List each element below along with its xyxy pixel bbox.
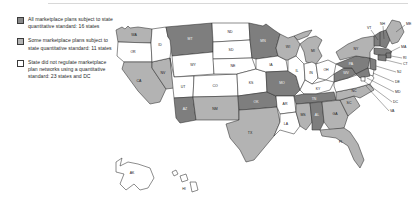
state-label-AL: AL <box>315 113 319 117</box>
state-FL <box>320 128 364 168</box>
callout-label-MD: MD <box>395 90 401 94</box>
state-label-AK: AK <box>130 171 135 175</box>
callout-label-ME: ME <box>406 22 412 26</box>
state-label-PA: PA <box>349 62 354 66</box>
state-AK <box>116 158 154 190</box>
callout-label-CT: CT <box>403 62 409 66</box>
choropleth-figure: All marketplace plans subject to state q… <box>0 0 418 221</box>
state-label-AR: AR <box>283 102 288 106</box>
state-label-MS: MS <box>300 113 306 117</box>
state-CT <box>378 55 386 61</box>
state-DC <box>361 77 365 81</box>
legend-item-none: State did not regulate marketplace plan … <box>17 59 117 81</box>
state-NJ <box>370 58 376 70</box>
state-label-SD: SD <box>229 48 234 52</box>
state-label-WA: WA <box>131 33 137 37</box>
state-label-NC: NC <box>351 89 357 93</box>
state-label-OH: OH <box>323 68 329 72</box>
callout-label-MA: MA <box>401 45 407 49</box>
top-rule <box>48 3 408 4</box>
state-label-IN: IN <box>309 71 313 75</box>
state-label-OR: OR <box>130 50 136 54</box>
callout-label-NH: NH <box>380 22 386 26</box>
callout-label-NJ: NJ <box>397 70 402 74</box>
state-label-HI: HI <box>182 187 186 191</box>
state-label-MO: MO <box>279 81 285 85</box>
state-label-GA: GA <box>332 112 338 116</box>
state-label-SC: SC <box>347 101 352 105</box>
callout-label-VA: VA <box>390 109 395 113</box>
state-label-MN: MN <box>260 39 266 43</box>
callout-label-DC: DC <box>393 100 399 104</box>
state-label-MI: MI <box>311 49 315 53</box>
legend-label-some: Some marketplace plans subject to state … <box>28 37 116 51</box>
map-legend: All marketplace plans subject to state q… <box>17 16 117 88</box>
state-label-KY: KY <box>316 87 321 91</box>
state-label-NE: NE <box>231 64 237 68</box>
state-label-CO: CO <box>212 84 218 88</box>
legend-label-none: State did not regulate marketplace plan … <box>28 59 116 81</box>
legend-item-all: All marketplace plans subject to state q… <box>17 16 117 30</box>
callout-label-RI: RI <box>403 56 407 60</box>
state-label-ID: ID <box>158 43 162 47</box>
state-label-TN: TN <box>312 97 317 101</box>
state-label-TX: TX <box>248 131 253 135</box>
state-label-NM: NM <box>212 107 218 111</box>
state-label-KS: KS <box>249 81 254 85</box>
dark-gray-swatch-icon <box>17 17 24 24</box>
state-label-FL: FL <box>339 140 343 144</box>
state-RI <box>386 53 391 58</box>
legend-item-some: Some marketplace plans subject to state … <box>17 37 117 51</box>
state-label-IL: IL <box>296 69 299 73</box>
state-label-WV: WV <box>343 71 349 75</box>
state-label-MT: MT <box>187 37 193 41</box>
callout-label-DE: DE <box>395 80 401 84</box>
state-label-NY: NY <box>354 47 360 51</box>
medium-gray-swatch-icon <box>17 38 24 45</box>
state-label-OK: OK <box>253 100 259 104</box>
state-label-NV: NV <box>161 71 167 75</box>
callout-label-VT: VT <box>367 26 372 30</box>
state-label-LA: LA <box>284 122 289 126</box>
legend-label-all: All marketplace plans subject to state q… <box>28 16 116 30</box>
us-map: WA OR CA NV ID MT WY UT AZ CO NM ND SD N… <box>108 12 414 217</box>
state-label-CA: CA <box>137 79 143 83</box>
state-label-WI: WI <box>286 45 290 49</box>
state-label-WY: WY <box>190 63 196 67</box>
white-swatch-icon <box>17 60 24 67</box>
state-label-ND: ND <box>227 30 233 34</box>
